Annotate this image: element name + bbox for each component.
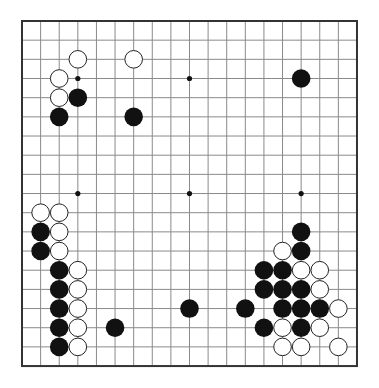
white-stone	[69, 51, 87, 69]
black-stone	[31, 242, 50, 261]
white-stone	[311, 261, 329, 279]
white-stone	[125, 51, 143, 69]
black-stone	[273, 280, 292, 299]
white-stone	[274, 242, 292, 260]
black-stone	[292, 280, 311, 299]
white-stone	[69, 319, 87, 337]
black-stone	[236, 299, 255, 318]
black-stone	[50, 280, 69, 299]
white-stone	[69, 300, 87, 318]
white-stone	[292, 261, 310, 279]
white-stone	[50, 223, 68, 241]
white-stone	[330, 300, 348, 318]
white-stone	[69, 338, 87, 356]
white-stone	[32, 204, 50, 222]
white-stone	[311, 319, 329, 337]
go-board[interactable]	[0, 0, 379, 388]
black-stone	[50, 338, 69, 357]
black-stone	[180, 299, 199, 318]
white-stone	[330, 338, 348, 356]
black-stone	[273, 299, 292, 318]
star-point	[75, 76, 80, 81]
black-stone	[255, 318, 274, 337]
black-stone	[292, 223, 311, 242]
black-stone	[31, 223, 50, 242]
black-stone	[69, 88, 88, 107]
black-stone	[124, 108, 143, 127]
black-stone	[106, 318, 125, 337]
white-stone	[274, 319, 292, 337]
black-stone	[50, 299, 69, 318]
star-point	[187, 76, 192, 81]
white-stone	[69, 281, 87, 299]
white-stone	[50, 89, 68, 107]
star-point	[299, 191, 304, 196]
black-stone	[292, 318, 311, 337]
white-stone	[69, 261, 87, 279]
black-stone	[255, 261, 274, 280]
black-stone	[292, 69, 311, 88]
white-stone	[311, 281, 329, 299]
white-stone	[292, 338, 310, 356]
star-point	[187, 191, 192, 196]
black-stone	[50, 261, 69, 280]
white-stone	[274, 338, 292, 356]
black-stone	[310, 299, 329, 318]
black-stone	[255, 280, 274, 299]
black-stone	[50, 108, 69, 127]
star-point	[75, 191, 80, 196]
black-stone	[292, 299, 311, 318]
black-stone	[50, 318, 69, 337]
black-stone	[273, 261, 292, 280]
white-stone	[50, 70, 68, 88]
white-stone	[50, 204, 68, 222]
white-stone	[50, 242, 68, 260]
black-stone	[292, 242, 311, 261]
